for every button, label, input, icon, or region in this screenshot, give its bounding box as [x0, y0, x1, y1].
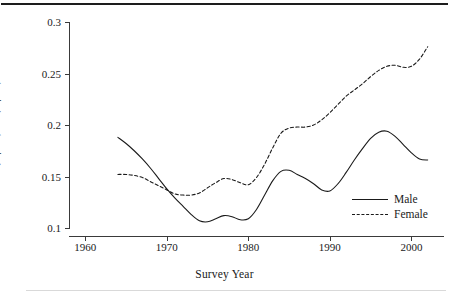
legend-item-male: Male	[352, 192, 428, 207]
y-tick-label: 0.15	[42, 171, 61, 182]
top-divider-rule	[1, 3, 448, 5]
chart-page: 0.10.150.20.250.3 19601970198019902000 P…	[0, 0, 449, 298]
x-axis-spine	[69, 236, 444, 237]
chart-legend: Male Female	[352, 192, 428, 222]
y-tick-label: 0.3	[47, 17, 61, 28]
y-tick-label: 0.1	[47, 223, 61, 234]
x-tick-label: 1970	[156, 242, 178, 253]
legend-key-solid-line	[352, 199, 388, 200]
series-line-female	[118, 47, 428, 196]
x-tick-label: 1990	[319, 242, 341, 253]
legend-key-dashed-line	[352, 214, 388, 215]
legend-label-male: Male	[394, 194, 418, 206]
y-tick-label: 0.25	[42, 68, 61, 79]
x-axis-title: Survey Year	[0, 268, 449, 280]
x-tick-label: 1980	[237, 242, 259, 253]
x-tick-label: 1960	[74, 242, 96, 253]
x-tick-label: 2000	[400, 242, 422, 253]
legend-item-female: Female	[352, 207, 428, 222]
legend-label-female: Female	[394, 209, 428, 221]
y-tick-label: 0.2	[47, 120, 61, 131]
bottom-divider-rule	[26, 290, 446, 291]
